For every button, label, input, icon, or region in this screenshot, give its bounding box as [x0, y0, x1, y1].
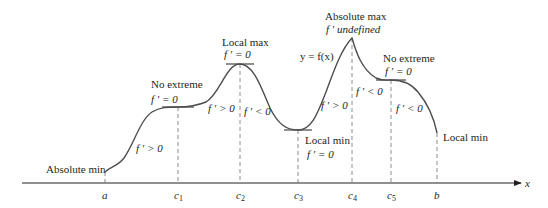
- label-decreasing-3: f ′ < 0: [396, 102, 423, 114]
- label-increasing-3: f ′ > 0: [321, 99, 348, 111]
- label-decreasing-2: f ′ < 0: [356, 85, 383, 97]
- tick-labels: a c1 c2 c3 c4 c5 b: [102, 189, 440, 203]
- label-no-extreme-2-deriv: f ′ = 0: [385, 65, 412, 77]
- label-absolute-max-deriv: f ′ undefined: [326, 23, 381, 35]
- label-local-min: Local min: [305, 134, 350, 146]
- label-no-extreme-1-deriv: f ′ = 0: [151, 93, 178, 105]
- label-increasing-1: f ′ > 0: [136, 142, 163, 154]
- tick-c5: c5: [387, 189, 396, 203]
- label-no-extreme-2: No extreme: [383, 52, 435, 64]
- tick-c1: c1: [174, 189, 183, 203]
- x-axis-label: x: [524, 177, 530, 189]
- label-local-min-end: Local min: [443, 131, 488, 143]
- label-no-extreme-1: No extreme: [151, 78, 203, 90]
- label-local-min-deriv: f ′ = 0: [307, 148, 334, 160]
- label-decreasing-1: f ′ < 0: [244, 105, 271, 117]
- label-absolute-max: Absolute max: [325, 10, 387, 22]
- tick-c2: c2: [236, 189, 245, 203]
- tick-c3: c3: [294, 189, 303, 203]
- label-local-max: Local max: [222, 36, 269, 48]
- tick-a: a: [102, 189, 108, 201]
- label-curve: y = f(x): [300, 50, 334, 63]
- tick-c4: c4: [348, 189, 357, 203]
- extrema-diagram: x a c1 c2 c3 c4 c5 b Absolute min No ext…: [0, 0, 548, 208]
- label-increasing-2: f ′ > 0: [208, 102, 235, 114]
- tick-b: b: [434, 189, 440, 201]
- label-absolute-min: Absolute min: [46, 163, 106, 175]
- label-local-max-deriv: f ′ = 0: [224, 48, 251, 60]
